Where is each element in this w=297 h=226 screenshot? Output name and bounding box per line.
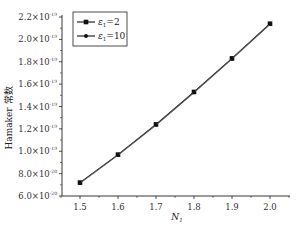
x-tick-label: 2.0: [263, 202, 277, 212]
data-point-circle: [230, 57, 234, 61]
y-tick-label: 1.6×10-19: [18, 79, 57, 89]
hamaker-constant-chart: 6.0×10-208.0×10-201.0×10-191.2×10-191.4×…: [0, 0, 297, 226]
x-axis-title: N1: [170, 212, 182, 223]
x-tick-label: 1.8: [187, 202, 201, 212]
legend-label: ε1=2: [98, 17, 120, 28]
y-tick-label: 2.2×10-19: [18, 12, 57, 22]
x-tick-label: 1.5: [73, 202, 87, 212]
y-tick-label: 1.0×10-19: [18, 146, 57, 156]
y-tick-label: 1.4×10-19: [18, 102, 57, 112]
data-point-circle: [78, 181, 82, 185]
data-point-circle: [192, 91, 196, 95]
x-tick-label: 1.6: [111, 202, 125, 212]
legend-marker-circle: [84, 34, 88, 38]
y-tick-label: 1.8×10-19: [18, 57, 57, 67]
legend-marker-square: [84, 20, 89, 25]
y-tick-label: 2.0×10-19: [18, 34, 57, 44]
x-tick-label: 1.9: [225, 202, 239, 212]
y-axis: 6.0×10-208.0×10-201.0×10-191.2×10-191.4×…: [18, 12, 62, 201]
legend: ε1=2ε1=10: [73, 12, 127, 46]
legend-label: ε1=10: [98, 31, 126, 42]
series-line: [80, 24, 270, 183]
data-point-circle: [154, 123, 158, 127]
y-axis-title: Hamaker 常数: [3, 86, 14, 149]
x-tick-label: 1.7: [149, 202, 163, 212]
y-tick-label: 6.0×10-20: [18, 191, 57, 201]
x-axis: 1.51.61.71.81.92.0: [61, 196, 290, 212]
series-line: [80, 24, 270, 183]
y-tick-label: 1.2×10-19: [18, 124, 57, 134]
x-axis-title-sub: 1: [179, 217, 183, 223]
data-point-circle: [268, 22, 272, 26]
data-point-circle: [116, 153, 120, 157]
y-tick-label: 8.0×10-20: [18, 169, 57, 179]
